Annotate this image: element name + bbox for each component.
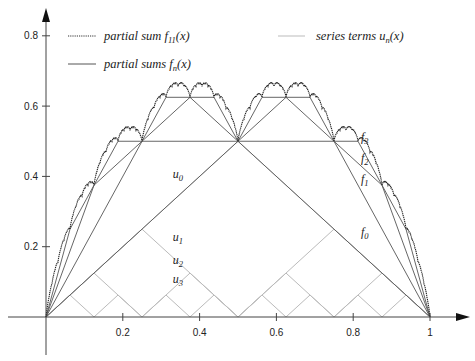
term-u1 — [46, 229, 430, 317]
curve-label-f0: f0 — [361, 225, 369, 241]
x-axis-arrow-icon — [456, 313, 470, 321]
term-u3 — [46, 295, 430, 317]
y-tick-label: 0.6 — [24, 101, 38, 112]
legend-label-un: series terms un(x) — [316, 29, 404, 45]
partial-sum-f2 — [46, 97, 430, 317]
term-u2 — [46, 273, 430, 317]
y-axis-arrow-icon — [42, 8, 50, 22]
y-tick-label: 0.8 — [24, 30, 38, 41]
curve-label-u0: u0 — [173, 167, 184, 183]
x-tick-label: 0.8 — [346, 327, 360, 338]
x-tick-label: 1 — [427, 327, 433, 338]
partial-sum-f3 — [46, 97, 430, 317]
curve-labels: u0u1u2u3f0f1f2f3 — [173, 130, 370, 287]
y-tick-label: 0.2 — [24, 241, 38, 252]
legend-label-f11: partial sum f11(x) — [103, 29, 190, 45]
takagi-chart: 0.20.40.60.81 0.20.40.60.8 u0u1u2u3f0f1f… — [0, 0, 475, 361]
curve-label-f1: f1 — [361, 172, 369, 188]
legend: partial sum f11(x) partial sums fn(x) se… — [68, 29, 404, 73]
curve-label-u3: u3 — [173, 272, 183, 288]
legend-label-fn: partial sums fn(x) — [103, 57, 191, 73]
x-tick-label: 0.2 — [116, 327, 130, 338]
curve-label-u1: u1 — [173, 230, 183, 246]
y-tick-label: 0.4 — [24, 171, 38, 182]
x-tick-label: 0.4 — [193, 327, 207, 338]
curve-label-u2: u2 — [173, 253, 184, 269]
partial-sums-group — [46, 97, 430, 317]
x-tick-label: 0.6 — [269, 327, 283, 338]
curve-label-f3: f3 — [361, 130, 369, 146]
axes — [8, 8, 470, 355]
